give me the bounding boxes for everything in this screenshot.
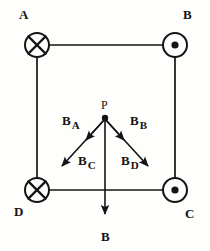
point-p-marker — [102, 115, 108, 121]
vector-bb-label: BB — [130, 112, 146, 128]
vector-subscript: D — [131, 159, 139, 171]
vector-symbol: B — [101, 229, 110, 244]
current-out-of-page-icon — [163, 178, 187, 202]
corner-label-d: D — [14, 205, 23, 218]
vector-subscript: C — [88, 159, 96, 171]
current-out-of-page-icon — [163, 33, 187, 57]
vector-subscript: B — [140, 119, 147, 131]
physics-figure-page: A B C D P BABBBCBDB — [0, 0, 210, 251]
vector-ba-label: BA — [62, 112, 79, 128]
vector-symbol: B — [62, 113, 71, 128]
corner-label-a: A — [19, 8, 28, 21]
corner-label-c: C — [185, 207, 194, 220]
vector-bd-label: BD — [121, 152, 138, 168]
point-p-label: P — [101, 99, 108, 111]
corner-label-b: B — [183, 8, 192, 21]
vector-symbol: B — [78, 153, 87, 168]
vector-bc-label: BC — [78, 152, 95, 168]
current-into-page-icon — [25, 178, 49, 202]
figure-canvas — [0, 0, 210, 251]
current-into-page-icon — [25, 33, 49, 57]
vector-symbol: B — [121, 153, 130, 168]
vector-symbol: B — [130, 113, 139, 128]
vector-b-resultant-label: B — [101, 228, 110, 244]
vector-subscript: A — [72, 119, 80, 131]
